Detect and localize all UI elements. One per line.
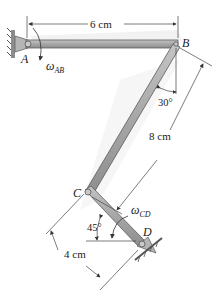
omega-cd-label: ωCD: [131, 203, 151, 219]
angle-d-label: 45°: [87, 222, 102, 233]
pin-a: [25, 41, 31, 47]
pin-c: [85, 189, 91, 195]
angle-b-label: 30°: [158, 97, 173, 108]
dimension-ab-label: 6 cm: [90, 18, 112, 30]
dimension-cd-label: 4 cm: [64, 248, 86, 260]
pin-d: [139, 241, 145, 247]
linkage-diagram: 6 cm 30° 8 cm 4 cm 45° ωAB ωCD A B C D: [0, 0, 224, 304]
dimension-bc-label: 8 cm: [149, 130, 171, 142]
point-a-label: A: [20, 52, 29, 66]
dimension-cd: [46, 194, 138, 290]
omega-ab-label: ωAB: [46, 59, 64, 75]
link-bc: [85, 44, 180, 196]
point-b-label: B: [182, 36, 190, 50]
point-d-label: D: [142, 225, 152, 239]
pin-b: [174, 42, 178, 46]
point-c-label: C: [73, 186, 82, 200]
link-ab: [26, 40, 178, 48]
shadows: [30, 30, 182, 210]
